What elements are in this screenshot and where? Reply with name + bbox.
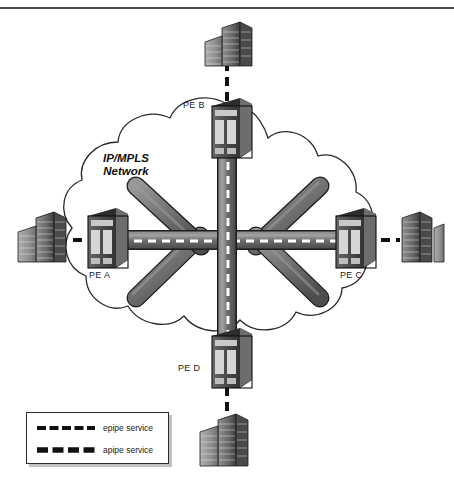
legend: epipe service apipe service (26, 412, 169, 464)
node-label-pe-a: PE A (89, 270, 110, 280)
node-label-pe-d: PE D (178, 363, 200, 373)
router-pe-d[interactable] (212, 328, 252, 388)
legend-swatch-epipe (36, 421, 96, 435)
network-diagram-canvas (0, 0, 454, 479)
diagram-page: IP/MPLS Network PE B PE A PE C PE D epip… (0, 0, 454, 479)
legend-label-apipe: apipe service (103, 445, 153, 455)
router-pe-b[interactable] (212, 98, 252, 158)
customer-site-right (402, 212, 444, 262)
legend-swatch-apipe (36, 443, 96, 457)
cloud-label-line1: IP/MPLS (83, 152, 169, 165)
node-label-pe-c: PE C (340, 270, 362, 280)
cloud-label: IP/MPLS Network (83, 152, 169, 178)
router-pe-c[interactable] (336, 208, 376, 268)
customer-site-left (18, 212, 66, 262)
router-pe-a[interactable] (88, 208, 128, 268)
legend-item-apipe: apipe service (27, 437, 168, 462)
legend-label-epipe: epipe service (103, 423, 153, 433)
node-label-pe-b: PE B (183, 100, 205, 110)
customer-site-bottom (200, 414, 248, 466)
cloud-label-line2: Network (83, 165, 169, 178)
customer-site-top (205, 22, 252, 66)
